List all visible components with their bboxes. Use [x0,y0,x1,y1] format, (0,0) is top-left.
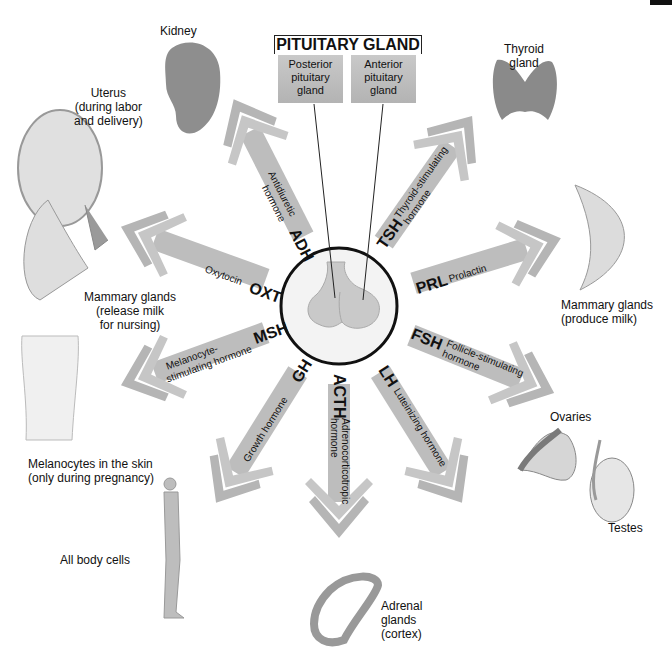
torso-illustration [22,336,79,440]
uterus-line-2: (during labor [74,100,143,114]
hormone-msh: MSH Melanocyte- stimulating hormone [161,318,292,385]
arrow-prl [404,206,571,316]
melanocytes-line-2: (only during pregnancy) [28,471,154,485]
arrow-fsh [399,304,567,425]
mammary-right-illustration [575,185,624,290]
uterus-line-1: Uterus [74,86,143,100]
mammary-release-line-3: for nursing) [84,318,176,332]
svg-text:hormone: hormone [329,418,340,458]
label-uterus: Uterus (during labor and delivery) [74,86,143,128]
uterus-line-3: and delivery) [74,114,143,128]
thyroid-line-1: Thyroid [504,42,544,56]
posterior-pituitary-box: Posterior pituitary gland [278,55,343,103]
label-mammary-produce: Mammary glands (produce milk) [561,298,653,326]
label-mammary-release: Mammary glands (release milk for nursing… [84,290,176,332]
svg-text:Adrenocorticotropic: Adrenocorticotropic [340,418,351,504]
all-cells-text: All body cells [60,553,130,567]
thyroid-line-2: gland [504,56,544,70]
ovaries-text: Ovaries [550,410,591,424]
hormone-lh: LH Luteinizing hormone [375,363,451,471]
label-thyroid: Thyroid gland [504,42,544,70]
posterior-line-2: pituitary [278,71,343,84]
label-ovaries: Ovaries [550,410,591,424]
anterior-line-3: gland [351,84,416,97]
hormone-gh: GH Growth hormone [238,356,315,465]
adrenal-line-3: (cortex) [381,627,422,641]
testes-text: Testes [608,521,643,535]
adrenal-illustration [314,577,378,643]
posterior-line-1: Posterior [278,58,343,71]
human-figure-illustration [164,478,184,618]
label-adrenal: Adrenal glands (cortex) [381,599,422,641]
label-all-body-cells: All body cells [60,553,130,567]
pituitary-gland-title: PITUITARY GLAND [274,35,422,54]
mammary-release-line-2: (release milk [84,304,176,318]
melanocytes-line-1: Melanocytes in the skin [28,457,154,471]
svg-text:OXT: OXT [247,279,284,306]
label-kidney: Kidney [160,24,197,38]
mammary-produce-line-2: (produce milk) [561,312,653,326]
posterior-line-3: gland [278,84,343,97]
anterior-line-2: pituitary [351,71,416,84]
adrenal-line-1: Adrenal [381,599,422,613]
label-testes: Testes [608,521,643,535]
mammary-produce-line-1: Mammary glands [561,298,653,312]
anterior-pituitary-box: Anterior pituitary gland [351,55,416,103]
kidney-illustration [165,43,220,134]
svg-text:ACTH: ACTH [331,374,348,418]
adrenal-line-2: glands [381,613,422,627]
kidney-text: Kidney [160,24,197,38]
label-melanocytes: Melanocytes in the skin (only during pre… [28,457,154,485]
svg-text:MSH: MSH [251,319,290,347]
mammary-release-line-1: Mammary glands [84,290,176,304]
testis-illustration [590,458,634,522]
anterior-line-1: Anterior [351,58,416,71]
